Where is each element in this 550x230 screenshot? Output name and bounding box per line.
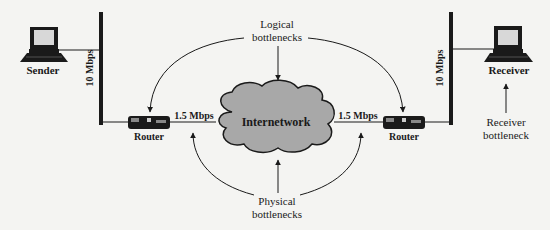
physical-bottlenecks-label-line1: Physical (258, 195, 295, 207)
left-lan-speed: 10 Mbps (84, 49, 95, 86)
logical-bottlenecks-label-line2: bottlenecks (252, 31, 302, 43)
right-lan-speed: 10 Mbps (434, 49, 445, 86)
receiver-laptop-icon (484, 26, 533, 62)
network-bottleneck-diagram: Sender Receiver 10 Mbps 10 Mbps Router R… (0, 0, 550, 230)
sender-label: Sender (27, 64, 60, 76)
right-wan-speed: 1.5 Mbps (338, 110, 378, 121)
receiver-bottleneck-label-line2: bottleneck (483, 129, 529, 141)
receiver-label: Receiver (489, 64, 530, 76)
receiver-bottleneck-label-line1: Receiver (486, 116, 525, 128)
right-router-label: Router (389, 131, 420, 142)
physical-bottlenecks-label-line2: bottlenecks (252, 208, 302, 220)
logical-bottlenecks-label-line1: Logical (260, 18, 294, 30)
left-router-icon (128, 116, 170, 129)
right-router-icon (383, 116, 425, 129)
left-router-label: Router (134, 131, 165, 142)
left-wan-speed: 1.5 Mbps (174, 110, 214, 121)
sender-laptop-icon (20, 27, 68, 62)
internetwork-label: Internetwork (242, 115, 311, 129)
